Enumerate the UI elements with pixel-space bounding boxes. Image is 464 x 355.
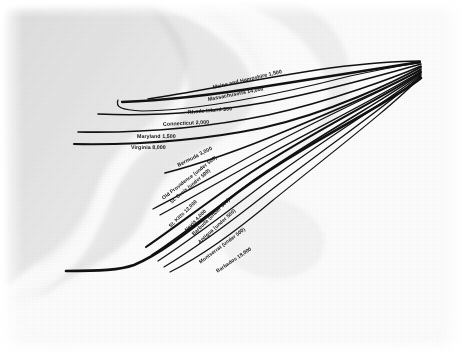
flow-map-figure: Maine and Hampshire 1,500Massachusetts 1… xyxy=(0,0,464,355)
paper-edge-fade xyxy=(0,0,464,355)
